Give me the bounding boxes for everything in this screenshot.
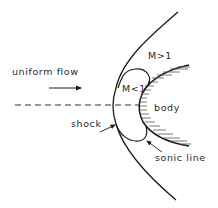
diagram-drawing xyxy=(0,0,218,208)
bow-shock-diagram: uniform flow M>1 M<1 body shock sonic li… xyxy=(0,0,218,208)
shock-leader xyxy=(100,125,115,132)
sonic-line-leader xyxy=(147,141,162,152)
label-uniform-flow: uniform flow xyxy=(12,67,79,77)
label-shock: shock xyxy=(71,119,102,129)
label-subsonic: M<1 xyxy=(122,84,146,94)
label-supersonic: M>1 xyxy=(148,51,172,61)
label-sonic-line: sonic line xyxy=(155,153,206,163)
label-body: body xyxy=(154,103,180,113)
